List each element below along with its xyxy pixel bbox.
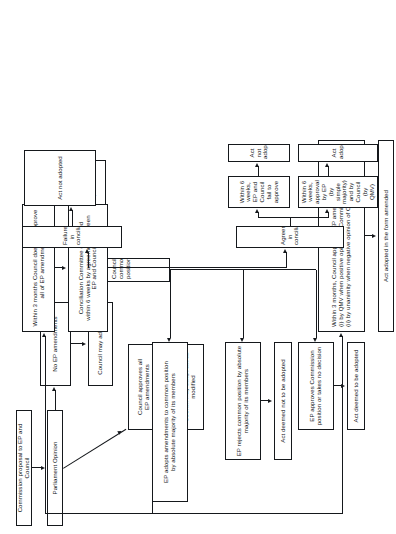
connector-ep-adopts-split-bottom <box>342 336 343 514</box>
connector-ep-adopts-split-down <box>152 513 342 514</box>
connector-bus-to-ep-approves <box>316 270 317 338</box>
node-ep-adopts-amendments: EP adopts amendments to common position … <box>152 342 188 502</box>
node-act-adopted: Act adopted <box>298 144 378 162</box>
connector-failure-to-not-adopted <box>72 210 73 226</box>
arrowhead-opinion-to-no-amendments <box>52 387 56 391</box>
arrowhead-no-amendments-to-council-adopt <box>82 343 86 347</box>
connector-conciliation-split <box>108 267 286 268</box>
node-act-deemed-not-to-be-adopted: Act deemed not to be adopted <box>274 342 292 460</box>
connector-within6-fail-to-not-adopted-h <box>258 166 259 176</box>
node-act-deemed-to-be-adopted: Act deemed to be adopted <box>347 342 365 430</box>
arrowhead-conciliation-to-agreement <box>283 249 287 253</box>
arrowhead-within6-approval-to-adopted <box>325 163 329 167</box>
arrowhead-conciliation-to-failure <box>85 249 89 253</box>
node-commission-proposal: Commission proposal to EP and Council <box>16 410 32 526</box>
connector-agreement-split-stub <box>290 218 291 226</box>
node-within-6-weeks-approval: Within 6 weeks, approval by EP (by simpl… <box>298 176 378 208</box>
arrowhead-agreement-to-within6-approval <box>325 209 329 213</box>
flowchart-rotated-layer: Commission proposal to EP and Council Pa… <box>0 0 396 534</box>
connector-conciliation-to-failure <box>88 252 89 268</box>
arrowhead-ep-rejects-to-not-adopted <box>268 400 272 404</box>
node-within-6-weeks-fail: Within 6 weeks, EP and Council fail to a… <box>228 176 290 208</box>
arrowhead-ep-adopts-to-within3-approves <box>339 333 343 337</box>
arrowhead-agreement-to-within6-fail <box>255 209 259 213</box>
connector-conciliation-to-agreement <box>286 252 287 268</box>
connector-bus-reject-stub <box>243 269 316 270</box>
node-ep-rejects-common-position: EP rejects common position by absolute m… <box>225 342 261 460</box>
node-act-not-adopted-failure: Act not adopted <box>24 150 96 206</box>
connector-ep-adopts-split-top <box>45 336 46 514</box>
connector-within6-approval-to-adopted <box>328 166 329 176</box>
node-conciliation-committee: Conciliation Committee convened within 6… <box>68 204 108 332</box>
arrowhead-within3-approves-to-act-amended <box>372 235 376 239</box>
connector-opinion-to-council-approves <box>63 429 126 469</box>
node-agreement-in-conciliation: Agreement in conciliation <box>236 226 344 248</box>
node-act-not-adopted-fail: Act not adopted <box>228 144 290 162</box>
node-failure-in-conciliation: Failure in conciliation <box>22 226 122 248</box>
connector-ep-adopts-split <box>45 513 152 514</box>
arrowhead-ep-adopts-to-within3-not-approve <box>42 333 46 337</box>
arrowhead-within6-fail-to-not-adopted <box>255 163 259 167</box>
node-within-3-months-council-does-not-approve: Within 3 months Council does not approve… <box>22 204 55 332</box>
node-act-adopted-in-form-amended: Act adopted in the form amended <box>378 140 394 332</box>
connector-opinion-to-no-amendments <box>55 390 56 410</box>
connector-agreement-split <box>258 217 328 218</box>
connector-bus-to-ep-adopts <box>170 270 171 338</box>
connector-bus-to-ep-rejects <box>243 270 244 338</box>
node-ep-approves-commission: EP approves Commission position or takes… <box>298 342 334 430</box>
flowchart-canvas: Commission proposal to EP and Council Pa… <box>0 0 396 534</box>
arrowhead-failure-to-not-adopted <box>69 207 73 211</box>
arrowhead-within3-not-approve-to-conciliation <box>62 267 66 271</box>
node-parliament-opinion: Parliament Opinion <box>47 410 63 526</box>
